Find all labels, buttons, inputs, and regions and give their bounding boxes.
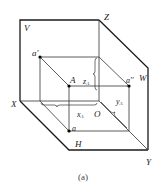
label-o: O [94,109,101,119]
label-h: H [74,139,82,149]
caption: (a) [78,172,88,182]
label-a-dprime: a'' [126,76,134,85]
label-x: X [10,99,17,109]
point-a-prime [38,55,41,58]
label-ya: yA [115,97,124,106]
label-y: Y [146,157,152,167]
label-w: W [139,73,148,83]
projection-diagram: V Z W X H Y O A a' a'' a zA xA yA (a) [0,0,165,193]
v-plane [20,20,99,101]
label-v: V [24,23,31,33]
label-a: a [72,124,76,133]
y-axis [99,101,148,150]
label-xa: xA [76,110,85,119]
label-A: A [69,75,76,85]
za-brace [93,58,97,90]
label-za: zA [82,77,90,86]
point-a [67,129,70,132]
label-z: Z [104,12,110,22]
w-plane [99,20,148,150]
points [38,55,130,132]
dimension-braces [41,58,127,128]
ya-brace [101,102,127,128]
label-a-prime: a' [32,48,40,58]
projection-lines [40,57,129,131]
